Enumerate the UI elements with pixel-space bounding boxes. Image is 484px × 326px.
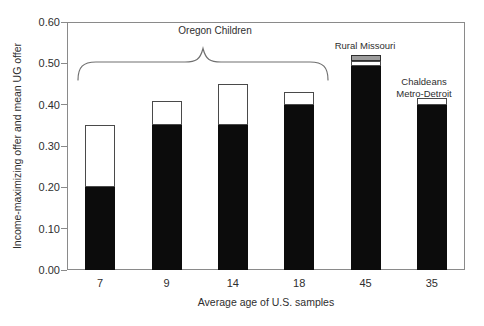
y-tick-label: 0.40 [16,99,60,111]
bar-segment-cap [351,55,381,61]
y-tick-mark [61,228,67,229]
x-tick-label-age-9: 9 [163,277,169,289]
y-tick-label: 0.20 [16,181,60,193]
annotation-chaldeans-line2: Metro-Detroit [396,88,451,100]
bar-age-7 [85,125,115,270]
x-tick-label-age-35: 35 [426,277,438,289]
y-tick-label: 0.10 [16,223,60,235]
bar-segment-white [351,61,381,66]
y-tick-mark [61,22,67,23]
y-tick-label: 0.30 [16,140,60,152]
ultimatum-game-offers-chart: Income-maximizing offer and mean UG offe… [0,0,484,326]
bar-segment-white [152,101,182,126]
x-tick-label-age-18: 18 [293,277,305,289]
x-tick-label-age-7: 7 [97,277,103,289]
x-axis-title: Average age of U.S. samples [198,296,334,308]
bar-segment-white [218,84,248,125]
bar-age-35 [417,98,447,270]
y-tick-mark [61,187,67,188]
x-tick-label-age-45: 45 [359,277,371,289]
y-tick-mark [61,63,67,64]
y-tick-mark [61,270,67,271]
y-tick-mark [61,146,67,147]
bar-segment-white [417,98,447,104]
annotation-oregon-children: Oregon Children [178,25,251,37]
bar-segment-black [284,105,314,270]
bar-age-45 [351,55,381,270]
bar-segment-black [351,66,381,270]
bar-segment-white [85,125,115,187]
bar-age-18 [284,92,314,270]
x-tick-label-age-14: 14 [227,277,239,289]
y-tick-label: 0.60 [16,16,60,28]
bar-segment-black [417,105,447,270]
bar-segment-black [85,187,115,270]
bar-segment-black [152,125,182,270]
y-tick-mark [61,104,67,105]
annotation-chaldeans-line1: Chaldeans [396,76,451,88]
bar-age-14 [218,84,248,270]
annotation-rural-missouri: Rural Missouri [335,40,396,52]
bar-age-9 [152,101,182,270]
y-tick-label: 0.00 [16,264,60,276]
bar-segment-black [218,125,248,270]
bar-segment-white [284,92,314,104]
annotation-chaldeans-metro-detroit: Chaldeans Metro-Detroit [396,76,451,99]
plot-area [67,22,465,270]
y-tick-label: 0.50 [16,57,60,69]
